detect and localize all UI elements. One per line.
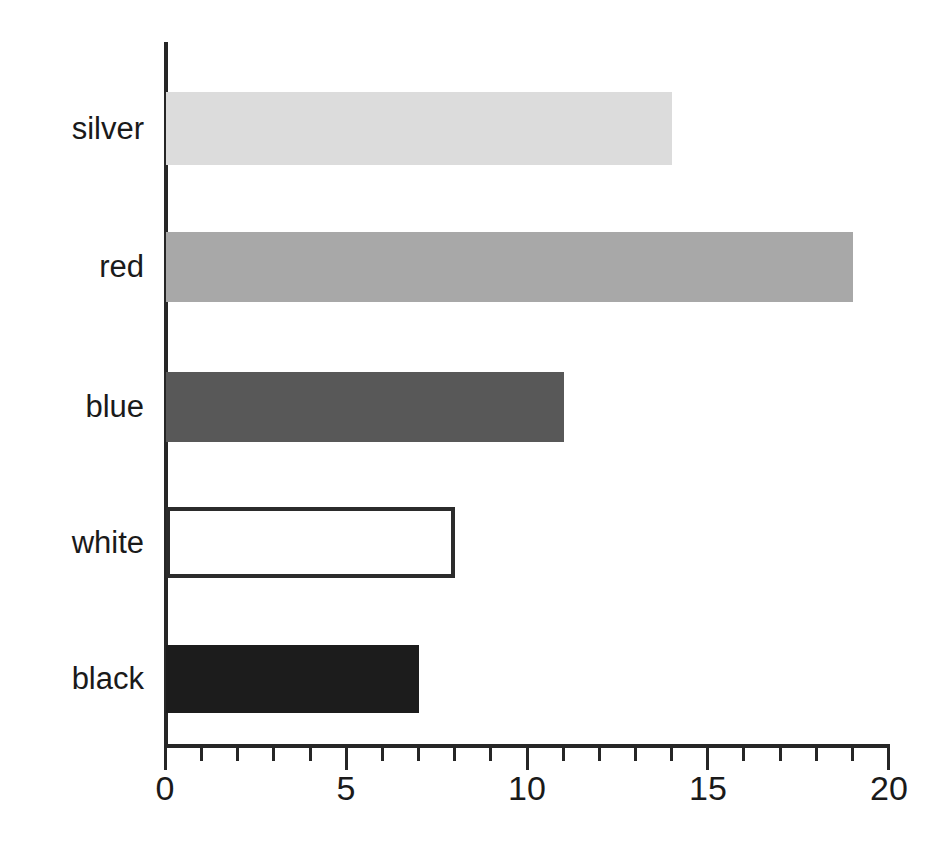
x-tick-label-10: 10 [487, 768, 567, 808]
x-tick-5 [345, 748, 348, 770]
x-tick-label-5: 5 [306, 768, 386, 808]
category-label-blue: blue [0, 391, 144, 422]
x-tick-19 [851, 748, 854, 761]
x-tick-2 [236, 748, 239, 761]
x-tick-16 [742, 748, 745, 761]
x-tick-label-15: 15 [668, 768, 748, 808]
x-tick-18 [815, 748, 818, 761]
bar-black [166, 645, 419, 713]
bar-chart: 0 5 10 15 20 silverredbluewhiteblack [0, 0, 946, 850]
bar-blue [166, 372, 564, 442]
x-tick-3 [272, 748, 275, 761]
x-tick-20 [887, 748, 890, 770]
x-tick-17 [779, 748, 782, 761]
x-tick-1 [200, 748, 203, 761]
category-label-red: red [0, 251, 144, 282]
x-tick-15 [706, 748, 709, 770]
bar-white [166, 507, 455, 578]
x-tick-12 [598, 748, 601, 761]
x-tick-8 [453, 748, 456, 761]
bar-red [166, 232, 853, 302]
x-tick-label-20: 20 [849, 768, 929, 808]
x-tick-14 [670, 748, 673, 761]
category-label-black: black [0, 663, 144, 694]
x-tick-13 [634, 748, 637, 761]
category-label-silver: silver [0, 113, 144, 144]
x-tick-9 [489, 748, 492, 761]
x-tick-7 [417, 748, 420, 761]
x-tick-4 [309, 748, 312, 761]
x-tick-label-0: 0 [125, 768, 205, 808]
x-tick-6 [381, 748, 384, 761]
x-tick-10 [526, 748, 529, 770]
x-tick-0 [164, 748, 167, 770]
bar-silver [166, 92, 672, 165]
category-label-white: white [0, 527, 144, 558]
x-tick-11 [562, 748, 565, 761]
